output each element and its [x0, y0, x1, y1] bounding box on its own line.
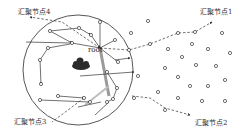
sink-label-3: 汇聚节点3	[14, 118, 46, 126]
root-region-circle	[23, 15, 133, 125]
network-diagram: root	[0, 0, 250, 138]
sink-label-1: 汇聚节点1	[200, 8, 232, 16]
root-cloud-icon	[72, 58, 90, 71]
sink-label-4: 汇聚节点4	[18, 8, 51, 16]
sensor-nodes	[38, 19, 231, 111]
sink-label-2: 汇聚节点2	[195, 119, 227, 127]
sink-routes	[30, 17, 212, 122]
